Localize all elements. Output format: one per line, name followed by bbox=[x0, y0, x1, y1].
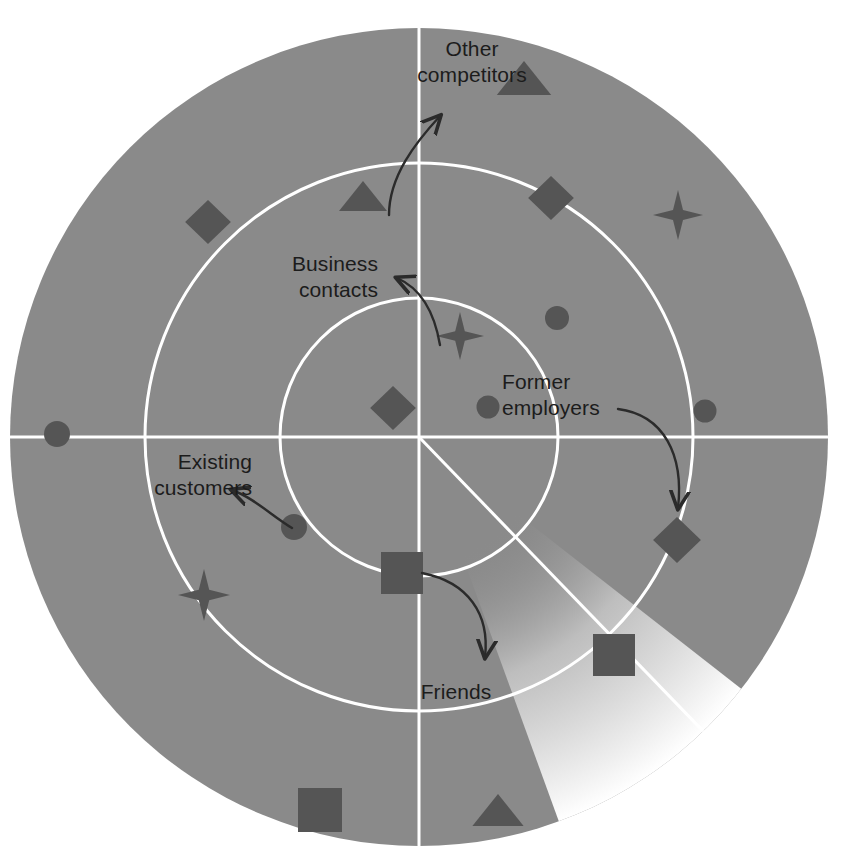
marker-circle bbox=[44, 421, 70, 447]
marker-circle bbox=[545, 306, 569, 330]
radar-diagram: Other competitorsBusiness contactsFormer… bbox=[0, 0, 846, 864]
marker-square bbox=[593, 634, 635, 676]
marker-circle bbox=[281, 514, 307, 540]
radar-canvas bbox=[0, 0, 846, 864]
marker-circle bbox=[694, 400, 717, 423]
marker-circle bbox=[477, 396, 500, 419]
marker-square bbox=[298, 788, 342, 832]
marker-square bbox=[381, 552, 423, 594]
